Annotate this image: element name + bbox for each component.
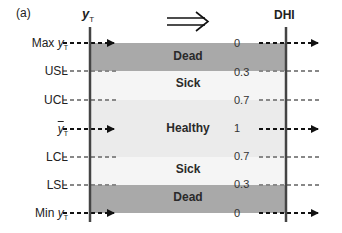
- row-label-lsl: LSL: [0, 178, 68, 192]
- row-label-lcl: LCL: [0, 150, 68, 164]
- axis-sub: T: [89, 15, 94, 24]
- row-label-ucl: UCL: [0, 93, 68, 107]
- label-text: Min: [35, 206, 58, 220]
- row-label-mean: yT: [0, 122, 68, 137]
- dhi-value-min: 0: [234, 207, 240, 219]
- dhi-value-lcl: 0.7: [234, 150, 249, 162]
- dhi-value-max: 0: [234, 37, 240, 49]
- transform-arrow-icon: [167, 12, 208, 31]
- dhi-value-lsl: 0.3: [234, 178, 249, 190]
- row-label-min: Min yT: [0, 206, 68, 221]
- left-axis-title: yT: [82, 6, 94, 24]
- label-sub: T: [64, 44, 68, 51]
- row-label-usl: USL: [0, 64, 68, 78]
- dhi-value-mean: 1: [234, 122, 240, 134]
- right-axis-title: DHI: [274, 8, 295, 22]
- diagram-lines: [0, 0, 342, 233]
- label-text: Max: [32, 36, 58, 50]
- dhi-value-ucl: 0.7: [234, 94, 249, 106]
- label-sub: T: [64, 130, 68, 137]
- row-label-max: Max yT: [0, 36, 68, 51]
- dhi-value-usl: 0.3: [234, 66, 249, 78]
- right-arrow-lines: [259, 43, 318, 213]
- label-sub: T: [64, 214, 68, 221]
- left-arrow-lines: [63, 43, 114, 213]
